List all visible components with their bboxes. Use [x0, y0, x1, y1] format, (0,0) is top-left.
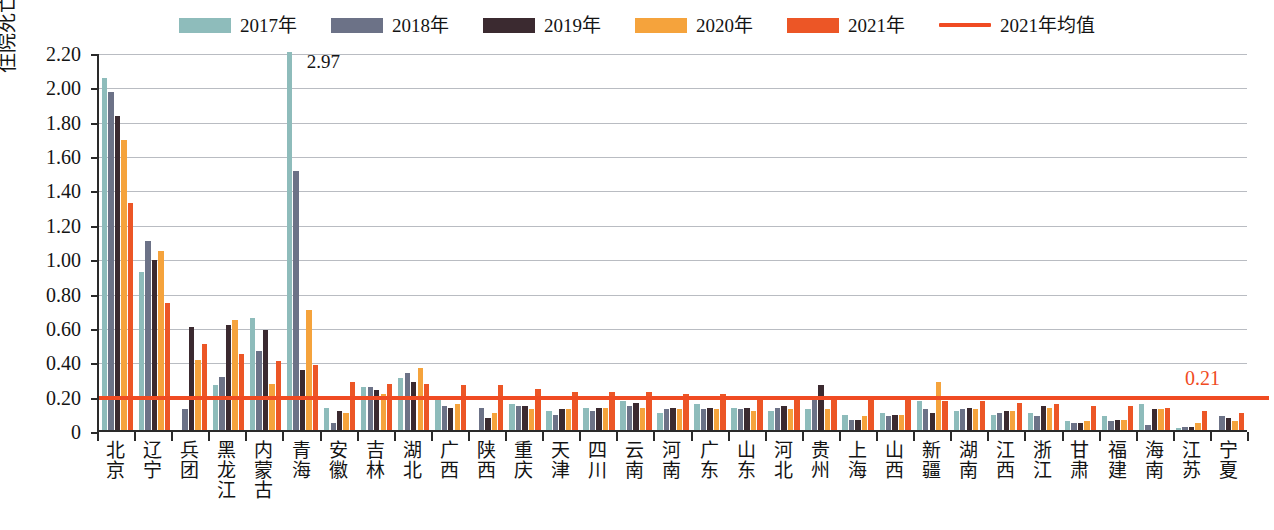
bar[interactable]: [158, 251, 163, 430]
bar[interactable]: [250, 318, 255, 430]
bar[interactable]: [152, 260, 157, 430]
bar[interactable]: [1128, 406, 1133, 430]
bar[interactable]: [768, 411, 773, 430]
bar[interactable]: [794, 396, 799, 430]
bar[interactable]: [1054, 404, 1059, 430]
bar[interactable]: [1078, 423, 1083, 430]
bar[interactable]: [405, 373, 410, 430]
bar[interactable]: [139, 272, 144, 430]
bar[interactable]: [657, 413, 662, 430]
bar[interactable]: [1108, 421, 1113, 430]
bar[interactable]: [1065, 421, 1070, 430]
bar[interactable]: [529, 409, 534, 430]
bar[interactable]: [189, 327, 194, 430]
bar[interactable]: [831, 397, 836, 430]
bar[interactable]: [701, 409, 706, 430]
bar[interactable]: [509, 404, 514, 430]
bar[interactable]: [905, 399, 910, 430]
bar[interactable]: [855, 420, 860, 430]
bar[interactable]: [424, 384, 429, 430]
bar[interactable]: [1189, 427, 1194, 430]
bar[interactable]: [886, 416, 891, 430]
bar[interactable]: [1121, 420, 1126, 430]
bar[interactable]: [492, 413, 497, 430]
legend-item[interactable]: 2019年: [483, 16, 601, 35]
bar[interactable]: [633, 403, 638, 430]
bar[interactable]: [818, 385, 823, 430]
bar[interactable]: [1176, 428, 1181, 430]
bar[interactable]: [202, 344, 207, 430]
bar[interactable]: [1041, 406, 1046, 430]
bar[interactable]: [936, 382, 941, 430]
bar[interactable]: [343, 413, 348, 430]
bar[interactable]: [1028, 413, 1033, 430]
bar[interactable]: [269, 384, 274, 430]
bar[interactable]: [108, 92, 113, 430]
legend-item[interactable]: 2021年: [787, 16, 905, 35]
bar[interactable]: [182, 409, 187, 430]
bar[interactable]: [1165, 408, 1170, 430]
bar[interactable]: [973, 409, 978, 430]
bar[interactable]: [368, 387, 373, 430]
bar[interactable]: [1091, 406, 1096, 430]
bar[interactable]: [337, 411, 342, 430]
bar[interactable]: [287, 52, 292, 430]
bar[interactable]: [849, 420, 854, 430]
bar[interactable]: [1232, 421, 1237, 430]
bar[interactable]: [960, 409, 965, 430]
bar[interactable]: [862, 416, 867, 430]
bar[interactable]: [954, 411, 959, 430]
bar[interactable]: [899, 415, 904, 430]
bar[interactable]: [522, 406, 527, 430]
bar[interactable]: [195, 360, 200, 430]
bar[interactable]: [1239, 413, 1244, 430]
bar[interactable]: [306, 310, 311, 430]
bar[interactable]: [516, 406, 521, 430]
bar[interactable]: [232, 320, 237, 430]
bar[interactable]: [566, 409, 571, 430]
bar[interactable]: [868, 397, 873, 430]
bar[interactable]: [930, 413, 935, 430]
bar[interactable]: [923, 409, 928, 430]
bar[interactable]: [553, 415, 558, 430]
bar[interactable]: [442, 406, 447, 430]
bar[interactable]: [1115, 420, 1120, 430]
bar[interactable]: [627, 406, 632, 430]
bar[interactable]: [640, 408, 645, 430]
bar[interactable]: [788, 409, 793, 430]
bar[interactable]: [102, 78, 107, 430]
bar[interactable]: [1004, 411, 1009, 430]
bar[interactable]: [559, 409, 564, 430]
bar[interactable]: [350, 382, 355, 430]
bar[interactable]: [694, 404, 699, 430]
bar[interactable]: [1102, 416, 1107, 430]
bar[interactable]: [620, 401, 625, 430]
bar[interactable]: [670, 408, 675, 430]
bar[interactable]: [293, 171, 298, 430]
bar[interactable]: [361, 387, 366, 430]
bar[interactable]: [256, 351, 261, 430]
bar[interactable]: [1182, 427, 1187, 430]
bar[interactable]: [880, 413, 885, 430]
bar[interactable]: [226, 325, 231, 430]
bar[interactable]: [1084, 421, 1089, 430]
bar[interactable]: [590, 411, 595, 430]
bar[interactable]: [714, 409, 719, 430]
bar[interactable]: [707, 408, 712, 430]
bar[interactable]: [892, 415, 897, 430]
bar[interactable]: [583, 408, 588, 430]
bar[interactable]: [1139, 404, 1144, 430]
bar[interactable]: [1152, 409, 1157, 430]
bar[interactable]: [596, 408, 601, 430]
bar[interactable]: [991, 415, 996, 430]
bar[interactable]: [1158, 409, 1163, 430]
bar[interactable]: [1145, 425, 1150, 430]
bar[interactable]: [997, 413, 1002, 430]
bar[interactable]: [546, 411, 551, 430]
bar[interactable]: [435, 399, 440, 430]
bar[interactable]: [757, 396, 762, 430]
bar[interactable]: [387, 384, 392, 430]
bar[interactable]: [917, 401, 922, 430]
bar[interactable]: [398, 378, 403, 430]
bar[interactable]: [603, 408, 608, 430]
